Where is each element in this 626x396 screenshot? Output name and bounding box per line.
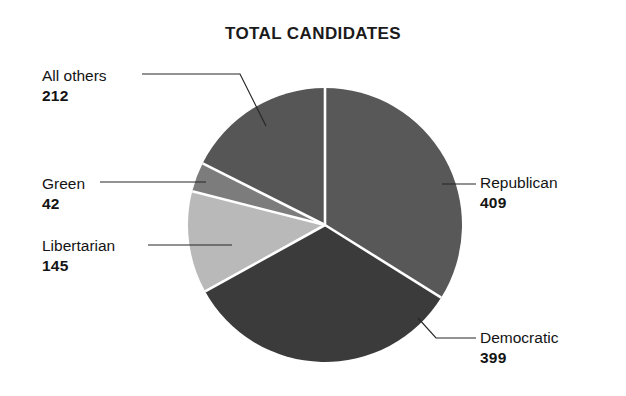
slice-label-republican: Republican 409 — [480, 173, 558, 213]
slice-label-republican-value: 409 — [480, 193, 558, 213]
slice-label-democratic: Democratic 399 — [480, 328, 558, 368]
slice-label-all-others: All others 212 — [42, 66, 107, 106]
slice-label-green: Green 42 — [42, 174, 85, 214]
slice-label-libertarian-name: Libertarian — [42, 236, 115, 256]
leader-line-democratic — [418, 318, 476, 338]
slice-label-democratic-value: 399 — [480, 348, 558, 368]
slice-label-green-name: Green — [42, 174, 85, 194]
slice-label-green-value: 42 — [42, 194, 85, 214]
slice-label-all-others-value: 212 — [42, 86, 107, 106]
slice-label-democratic-name: Democratic — [480, 328, 558, 348]
slice-label-libertarian-value: 145 — [42, 256, 115, 276]
slice-label-all-others-name: All others — [42, 66, 107, 86]
chart-page: TOTAL CANDIDATES — [0, 0, 626, 396]
slice-label-libertarian: Libertarian 145 — [42, 236, 115, 276]
slice-label-republican-name: Republican — [480, 173, 558, 193]
